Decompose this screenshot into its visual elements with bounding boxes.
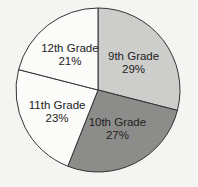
slice-percent: 27% [106,129,129,141]
slice-label: 9th Grade [108,50,159,62]
slice-label: 12th Grade [41,42,99,54]
slice-label: 11th Grade [29,99,86,111]
pie-chart: 9th Grade29%10th Grade27%11th Grade23%12… [0,0,198,187]
slice-percent: 29% [122,63,145,75]
slice-label: 10th Grade [89,116,147,128]
slice-percent: 21% [58,55,81,67]
slice-percent: 23% [46,112,69,124]
